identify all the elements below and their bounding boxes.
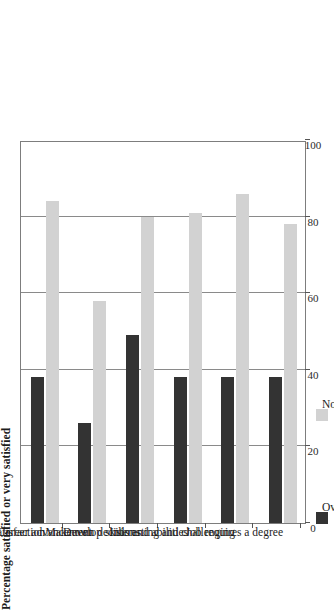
- chart-legend: OverqualifiedNot overqualified: [316, 323, 328, 524]
- axis-tick-label: 60: [308, 293, 319, 304]
- bar-group: Overall job satisfaction: [21, 142, 69, 523]
- bar: [269, 377, 282, 523]
- bar-group: Job requires a degree: [259, 142, 307, 523]
- bar: [284, 224, 297, 523]
- category-label: Job requires a degree: [186, 526, 283, 538]
- legend-label: Overqualified: [322, 501, 334, 513]
- axis-tick-label: 80: [308, 217, 319, 228]
- value-axis-title: Percentage satisfied or very satisfied: [0, 428, 12, 610]
- legend-item: Not overqualified: [316, 323, 328, 421]
- bar: [141, 217, 154, 523]
- axis-tick-label: 0: [310, 523, 316, 534]
- bar: [189, 213, 202, 523]
- bar: [78, 423, 91, 523]
- plot-area: 020406080100 Overall job satisfactionCar…: [20, 141, 306, 524]
- bar: [31, 377, 44, 523]
- axis-tick-label: 100: [305, 140, 322, 151]
- legend-label: Not overqualified: [322, 398, 334, 410]
- bar-group: Career advancement: [69, 142, 117, 523]
- bar: [221, 377, 234, 523]
- bar-group: Interesting and challenging: [212, 142, 260, 523]
- bar: [93, 301, 106, 523]
- bar: [46, 201, 59, 523]
- chart-figure: 020406080100 Overall job satisfactionCar…: [0, 0, 334, 610]
- category-tick: [300, 523, 301, 528]
- bar: [126, 335, 139, 523]
- legend-swatch: [316, 512, 328, 524]
- legend-item: Overqualified: [316, 443, 328, 524]
- bar: [236, 194, 249, 523]
- legend-swatch: [316, 409, 328, 421]
- bar-group: Develop skills and abilities: [164, 142, 212, 523]
- bar-groups: Overall job satisfactionCareer advanceme…: [21, 142, 305, 523]
- bar-group: Make own decisions: [116, 142, 164, 523]
- bar: [174, 377, 187, 523]
